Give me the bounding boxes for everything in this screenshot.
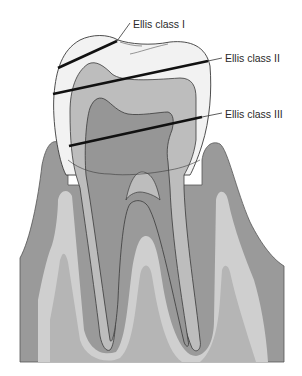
label-ellis-class-1: Ellis class I	[133, 18, 185, 30]
ellis-fracture-diagram: Ellis class I Ellis class II Ellis class…	[0, 0, 302, 376]
label-ellis-class-2: Ellis class II	[225, 52, 280, 64]
label-ellis-class-3: Ellis class III	[225, 108, 283, 120]
